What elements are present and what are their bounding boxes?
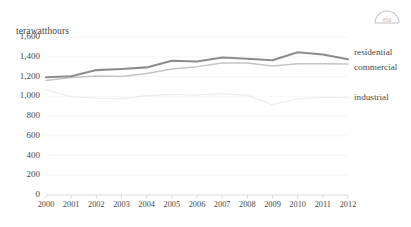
x-axis-tick-label: 2005 [164, 200, 181, 209]
series-lines [46, 52, 348, 105]
y-axis-tick-label: 800 [6, 110, 40, 120]
y-axis-tick-label: 200 [6, 169, 40, 179]
y-axis-tick-label: 400 [6, 150, 40, 160]
y-axis-tick-label: 1,200 [6, 71, 40, 81]
x-axis-tick-label: 2010 [289, 200, 306, 209]
x-axis-ticks [46, 195, 348, 199]
x-axis-tick-label: 2006 [189, 200, 206, 209]
series-line-industrial [46, 90, 348, 105]
gridlines [46, 37, 348, 175]
y-axis-tick-label: 600 [6, 130, 40, 140]
legend-label-commercial: commercial [354, 62, 397, 72]
x-axis-tick-label: 2009 [264, 200, 281, 209]
x-axis-tick-label: 2001 [63, 200, 80, 209]
x-axis-tick-label: 2008 [239, 200, 256, 209]
plot-area [0, 0, 411, 227]
y-axis-tick-label: 1,000 [6, 90, 40, 100]
x-axis-tick-label: 2011 [315, 200, 331, 209]
x-axis-tick-label: 2012 [340, 200, 357, 209]
y-axis-tick-label: 1,400 [6, 51, 40, 61]
chart-container: terawatthours eia 1,6001,4001,2001,00080… [0, 0, 411, 227]
legend-label-residential: residential [354, 47, 392, 57]
x-axis-tick-label: 2003 [113, 200, 130, 209]
x-axis-tick-label: 2000 [38, 200, 55, 209]
series-line-residential [46, 52, 348, 77]
y-axis-tick-label: 1,600 [6, 31, 40, 41]
legend-label-industrial: industrial [354, 92, 389, 102]
x-axis-tick-label: 2007 [214, 200, 231, 209]
y-axis-tick-label: 0 [6, 189, 40, 199]
x-axis-tick-label: 2002 [88, 200, 105, 209]
x-axis-tick-label: 2004 [138, 200, 155, 209]
